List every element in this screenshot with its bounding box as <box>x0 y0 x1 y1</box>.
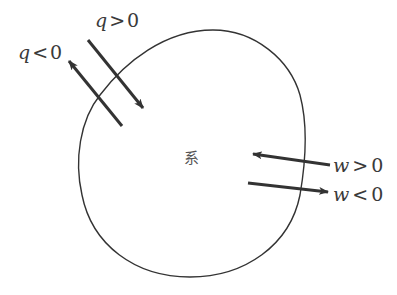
arrow-w-negative <box>248 183 328 192</box>
arrow-q-positive <box>88 40 143 108</box>
label-w-negative: w<0 <box>333 183 383 205</box>
label-q-negative: q<0 <box>18 41 62 63</box>
thermodynamic-system-diagram: q>0 q<0 w>0 w<0 系 <box>0 0 397 295</box>
system-label: 系 <box>184 149 199 167</box>
label-w-positive: w>0 <box>333 154 383 176</box>
label-q-positive: q>0 <box>95 9 139 31</box>
diagram-svg: q>0 q<0 w>0 w<0 系 <box>0 0 397 295</box>
arrow-w-positive <box>253 154 330 165</box>
